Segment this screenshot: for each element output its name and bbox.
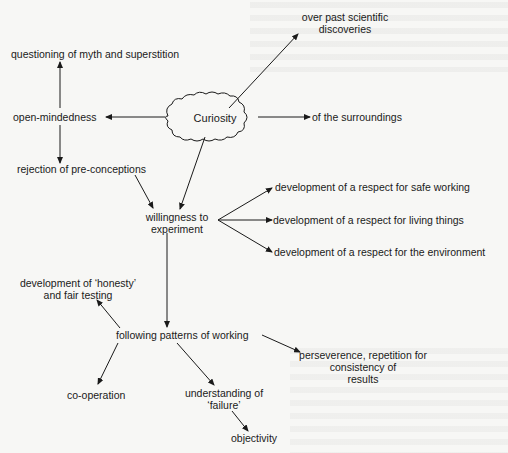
node-safe-working: development of a respect for safe workin…	[275, 181, 470, 193]
node-cooperation: co-operation	[67, 389, 125, 401]
node-open-mindedness: open-mindedness	[13, 111, 96, 123]
node-past-discoveries-line2: discoveries	[302, 23, 388, 35]
node-perseverence-line2: consistency of	[299, 361, 427, 373]
node-perseverence-line1: perseverence, repetition for	[299, 349, 427, 361]
node-perseverence-line3: results	[299, 373, 427, 385]
node-patterns: following patterns of working	[116, 329, 249, 341]
node-questioning: questioning of myth and superstition	[11, 48, 179, 60]
node-honesty: development of ‘honesty’ and fair testin…	[20, 277, 136, 301]
node-environment: development of a respect for the environ…	[274, 246, 485, 258]
node-honesty-line2: and fair testing	[20, 289, 136, 301]
node-willingness-line1: willingness to	[146, 211, 208, 223]
node-past-discoveries: over past scientific discoveries	[302, 11, 388, 35]
node-objectivity: objectivity	[231, 432, 277, 444]
node-failure-line1: understanding of	[185, 387, 263, 399]
node-honesty-line1: development of ‘honesty’	[20, 277, 136, 289]
node-failure-line2: ‘failure’	[185, 399, 263, 411]
node-failure: understanding of ‘failure’	[185, 387, 263, 411]
node-living-things: development of a respect for living thin…	[273, 214, 464, 226]
node-willingness: willingness to experiment	[146, 211, 208, 235]
connector-lines	[0, 0, 508, 453]
node-willingness-line2: experiment	[146, 223, 208, 235]
node-past-discoveries-line1: over past scientific	[302, 11, 388, 23]
node-curiosity: Curiosity	[194, 112, 237, 124]
node-surroundings: of the surroundings	[312, 111, 402, 123]
node-rejection: rejection of pre-conceptions	[17, 163, 146, 175]
node-perseverence: perseverence, repetition for consistency…	[299, 349, 427, 385]
